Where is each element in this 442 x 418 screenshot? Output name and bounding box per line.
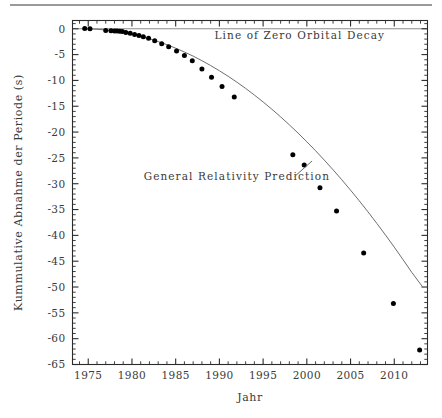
y-tick-label: -10 bbox=[47, 74, 65, 86]
data-point bbox=[136, 33, 141, 38]
data-point bbox=[391, 301, 396, 306]
data-point-group bbox=[82, 26, 422, 353]
y-tick-label: -20 bbox=[47, 126, 65, 138]
data-point bbox=[199, 67, 204, 72]
data-point bbox=[141, 34, 146, 39]
y-tick-label: -65 bbox=[47, 358, 65, 370]
y-tick-label: -50 bbox=[47, 281, 65, 293]
y-axis-title: Kummulative Abnahme der Periode (s) bbox=[12, 74, 25, 311]
x-tick-label: 1975 bbox=[74, 369, 102, 381]
x-tick-label: 1980 bbox=[118, 369, 146, 381]
data-point bbox=[417, 348, 422, 353]
figure-container: 197519801985199019952000200520100-5-10-1… bbox=[0, 0, 442, 418]
x-axis-title: Jahr bbox=[236, 391, 263, 404]
y-tick-label: -60 bbox=[47, 332, 65, 344]
y-tick-label: -45 bbox=[47, 255, 65, 267]
plot-frame bbox=[73, 21, 428, 365]
gr-prediction-annotation: General Relativity Prediction bbox=[144, 170, 330, 182]
y-tick-label: -55 bbox=[47, 307, 65, 319]
data-point bbox=[128, 31, 133, 36]
data-point bbox=[103, 28, 108, 33]
data-point bbox=[123, 30, 128, 35]
data-point bbox=[190, 58, 195, 63]
x-tick-label: 1995 bbox=[249, 369, 277, 381]
y-tick-label: 0 bbox=[58, 23, 65, 35]
orbital-decay-chart: 197519801985199019952000200520100-5-10-1… bbox=[0, 0, 442, 418]
data-point bbox=[232, 94, 237, 99]
x-tick-label: 2000 bbox=[293, 369, 321, 381]
y-tick-label: -40 bbox=[47, 229, 65, 241]
data-point bbox=[159, 41, 164, 46]
data-point bbox=[174, 48, 179, 53]
data-point bbox=[132, 32, 137, 37]
data-point bbox=[182, 53, 187, 58]
data-point bbox=[317, 185, 322, 190]
data-point bbox=[220, 84, 225, 89]
x-tick-label: 1990 bbox=[205, 369, 233, 381]
gr-prediction-curve bbox=[82, 29, 422, 287]
zero-decay-annotation: Line of Zero Orbital Decay bbox=[215, 29, 386, 41]
y-tick-label: -30 bbox=[47, 178, 65, 190]
y-tick-label: -35 bbox=[47, 203, 65, 215]
y-tick-label: -15 bbox=[47, 100, 65, 112]
x-tick-label: 2005 bbox=[336, 369, 364, 381]
x-tick-label: 2010 bbox=[380, 369, 408, 381]
data-point bbox=[87, 26, 92, 31]
y-tick-label: -5 bbox=[54, 48, 65, 60]
data-point bbox=[361, 250, 366, 255]
data-point bbox=[152, 38, 157, 43]
data-point bbox=[209, 75, 214, 80]
y-tick-label: -25 bbox=[47, 152, 65, 164]
data-point bbox=[166, 44, 171, 49]
data-point bbox=[334, 209, 339, 214]
data-point bbox=[82, 26, 87, 31]
data-point bbox=[290, 152, 295, 157]
x-tick-label: 1985 bbox=[162, 369, 190, 381]
data-point bbox=[146, 36, 151, 41]
